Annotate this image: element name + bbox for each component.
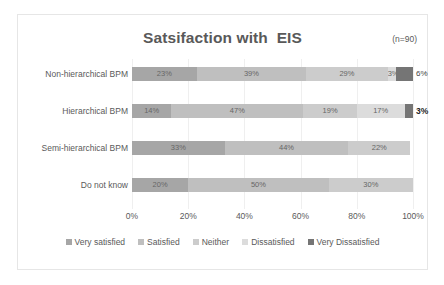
legend-swatch-icon (66, 239, 72, 245)
bar-segment-label: 30% (329, 178, 413, 192)
bar-segment[interactable]: 50% (188, 178, 329, 192)
bar-segment-label: 14% (132, 104, 171, 118)
bar-segment-label: 17% (357, 104, 405, 118)
bar-segment-label: 23% (132, 67, 197, 81)
axis-tick-label: 20% (180, 211, 197, 221)
axis-tick-label: 0% (126, 211, 138, 221)
bar-segment-label: 44% (225, 141, 349, 155)
sample-size-annotation: (n=90) (392, 34, 417, 44)
legend-label: Very satisfied (75, 237, 126, 247)
axis-tick-label: 100% (402, 211, 424, 221)
bar-segment[interactable]: 14% (132, 104, 171, 118)
title-row: Satsifaction with EIS (n=90) (18, 29, 427, 51)
bar-segment[interactable]: 47% (171, 104, 303, 118)
legend-item[interactable]: Very Dissatisfied (308, 237, 380, 247)
bar-segment[interactable]: 3% (388, 67, 396, 81)
bar-segment-label: 50% (188, 178, 329, 192)
bar-segment[interactable]: 19% (303, 104, 356, 118)
bar-outside-label: 6% (416, 67, 428, 81)
legend-swatch-icon (193, 239, 199, 245)
bar-segment[interactable]: 22% (348, 141, 410, 155)
bar-segment[interactable]: 33% (132, 141, 225, 155)
bar-outside-label: 3% (416, 104, 428, 118)
plot-area: 23%39%29%3%6%14%47%19%17%3%33%44%22%20%5… (132, 59, 413, 209)
bar-segment[interactable]: 39% (197, 67, 307, 81)
category-label: Hierarchical BPM (62, 104, 128, 118)
bar-track: 20%50%30% (132, 178, 413, 192)
gridline (413, 59, 414, 209)
bar-track: 14%47%19%17%3% (132, 104, 413, 118)
category-axis-labels: Non-hierarchical BPMHierarchical BPMSemi… (28, 59, 128, 209)
bar-segment[interactable]: 17% (357, 104, 405, 118)
category-label: Non-hierarchical BPM (45, 67, 128, 81)
chart-frame: Satsifaction with EIS (n=90) Non-hierarc… (17, 14, 428, 270)
bar-segment[interactable] (405, 104, 413, 118)
bar-row: 14%47%19%17%3% (132, 104, 413, 118)
bar-segment-label: 22% (348, 141, 410, 155)
legend-item[interactable]: Dissatisfied (242, 237, 294, 247)
bar-segment[interactable] (396, 67, 413, 81)
legend-label: Neither (202, 237, 229, 247)
legend-swatch-icon (138, 239, 144, 245)
bar-segment-label: 29% (306, 67, 387, 81)
bar-segment-label: 47% (171, 104, 303, 118)
bar-segment-label: 19% (303, 104, 356, 118)
bar-segment-label: 20% (132, 178, 188, 192)
bar-segment[interactable]: 23% (132, 67, 197, 81)
legend-label: Dissatisfied (251, 237, 294, 247)
bar-segment[interactable]: 20% (132, 178, 188, 192)
bar-segment[interactable]: 29% (306, 67, 387, 81)
bar-row: 33%44%22% (132, 141, 413, 155)
bar-track: 23%39%29%3%6% (132, 67, 413, 81)
value-axis-labels: 0%20%40%60%80%100% (132, 211, 413, 225)
legend-swatch-icon (242, 239, 248, 245)
bar-track: 33%44%22% (132, 141, 413, 155)
chart-legend: Very satisfiedSatisfiedNeitherDissatisfi… (18, 237, 427, 247)
bar-segment[interactable]: 30% (329, 178, 413, 192)
bar-segment-label: 39% (197, 67, 307, 81)
bar-row: 20%50%30% (132, 178, 413, 192)
legend-item[interactable]: Neither (193, 237, 229, 247)
legend-item[interactable]: Satisfied (138, 237, 180, 247)
bar-segment-label: 33% (132, 141, 225, 155)
bar-segment-label: 3% (388, 67, 396, 81)
axis-tick-label: 40% (236, 211, 253, 221)
page-title: Satsifaction with EIS (18, 29, 427, 47)
category-label: Semi-hierarchical BPM (42, 141, 128, 155)
bar-segment[interactable]: 44% (225, 141, 349, 155)
axis-tick-label: 80% (348, 211, 365, 221)
legend-item[interactable]: Very satisfied (66, 237, 126, 247)
bar-row: 23%39%29%3%6% (132, 67, 413, 81)
legend-label: Very Dissatisfied (317, 237, 380, 247)
axis-tick-label: 60% (292, 211, 309, 221)
category-label: Do not know (81, 178, 128, 192)
legend-label: Satisfied (147, 237, 180, 247)
legend-swatch-icon (308, 239, 314, 245)
